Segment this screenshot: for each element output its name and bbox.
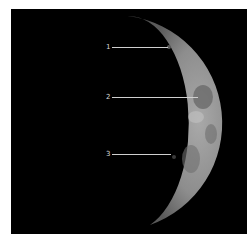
moon-image [11,9,247,234]
feature-label-2: 2 [106,93,110,101]
leader-line-3 [112,154,171,155]
moon-photo-frame: 1 2 3 [11,9,247,234]
leader-line-1 [112,47,168,48]
leader-line-2 [112,97,198,98]
feature-label-1: 1 [106,43,110,51]
feature-label-3: 3 [106,150,110,158]
